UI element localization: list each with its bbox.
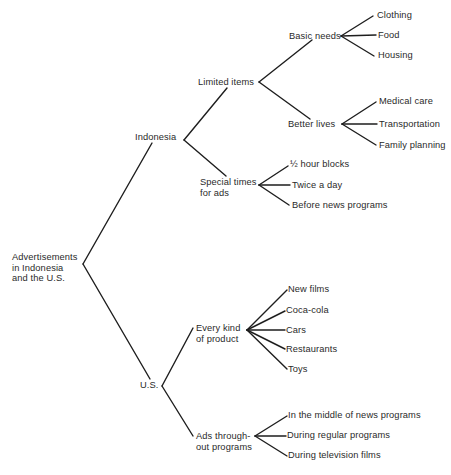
branch-basic-food (341, 35, 376, 36)
branch-ads-middle (255, 416, 287, 436)
branch-indonesia-limited (184, 88, 227, 140)
leaf-new-films: New films (288, 284, 329, 295)
leaf-during-regular-programs: During regular programs (287, 430, 390, 441)
leaf-before-news-programs: Before news programs (292, 200, 388, 211)
branch-root-indonesia (83, 143, 152, 264)
leaf-family-planning: Family planning (379, 140, 446, 151)
leaf-coca-cola: Coca-cola (286, 305, 329, 316)
leaf-toys: Toys (288, 364, 308, 375)
branch-special-halfhour (259, 166, 288, 185)
leaf-in-the-middle-of-news-programs: In the middle of news programs (288, 410, 421, 421)
leaf-housing: Housing (378, 50, 413, 61)
branch-better-family (342, 124, 376, 145)
branch-limited-basic (259, 40, 312, 82)
node-basic-needs: Basic needs (289, 31, 341, 42)
branch-everykind-toys (247, 330, 287, 369)
node-root: Advertisements in Indonesia and the U.S. (12, 252, 77, 284)
branch-everykind-cocacola (247, 311, 285, 330)
branch-basic-housing (341, 36, 374, 56)
branch-us-everykind (162, 328, 193, 386)
leaf-during-television-films: During television films (288, 450, 381, 461)
branch-indonesia-special (184, 140, 226, 176)
node-ads-throughout-programs: Ads through- out programs (196, 431, 252, 452)
branch-basic-clothing (341, 16, 373, 36)
branch-everykind-restaurants (247, 330, 285, 349)
tree-branches (0, 0, 451, 475)
leaf-food: Food (378, 30, 400, 41)
branch-root-us (83, 264, 150, 379)
node-special-times: Special times for ads (200, 177, 257, 198)
leaf-clothing: Clothing (377, 10, 412, 21)
branch-better-medical (342, 102, 376, 124)
node-limited-items: Limited items (198, 77, 254, 88)
node-indonesia: Indonesia (135, 132, 176, 143)
leaf-transportation: Transportation (379, 119, 440, 130)
branch-everykind-films (247, 290, 287, 330)
leaf-half-hour-blocks: ½ hour blocks (290, 159, 349, 170)
branch-ads-television (255, 436, 287, 456)
tree-diagram: Advertisements in Indonesia and the U.S.… (0, 0, 451, 475)
node-us: U.S. (140, 380, 158, 391)
leaf-cars: Cars (286, 325, 306, 336)
leaf-medical-care: Medical care (379, 96, 433, 107)
leaf-twice-a-day: Twice a day (292, 180, 342, 191)
branch-us-ads (162, 386, 193, 436)
branch-special-before (259, 185, 289, 205)
branch-limited-better (259, 82, 310, 119)
leaf-restaurants: Restaurants (286, 344, 337, 355)
node-every-kind-of-product: Every kind of product (196, 323, 240, 344)
node-better-lives: Better lives (288, 119, 335, 130)
